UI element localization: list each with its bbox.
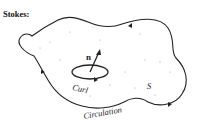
circulation-label: Circulation xyxy=(83,104,123,121)
surface-boundary-curve xyxy=(19,17,186,108)
surface-label: S xyxy=(147,81,152,91)
boundary-arrow-top-icon xyxy=(128,23,132,28)
figure-title: Stokes: xyxy=(3,9,29,19)
normal-label: n xyxy=(86,52,91,62)
diagram-canvas: n Curl S Circulation xyxy=(0,0,198,123)
curl-label: Curl xyxy=(72,82,90,95)
normal-arrowhead-icon xyxy=(96,49,101,55)
stokes-diagram: Stokes: n Curl S Circulation xyxy=(0,0,198,123)
